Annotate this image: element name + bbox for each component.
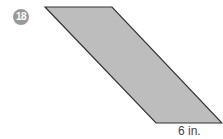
parallelogram: [45, 7, 222, 123]
parallelogram-figure: [0, 0, 223, 139]
base-length-label: 6 in.: [178, 124, 201, 138]
